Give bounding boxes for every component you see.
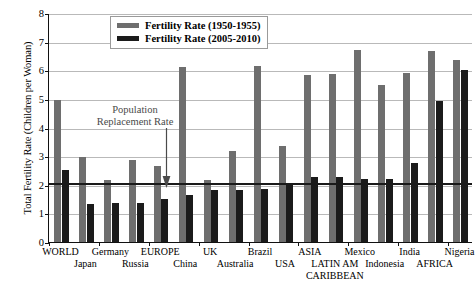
- fertility-rate-bar-chart: Total Fertility Rate (Children per Woman…: [0, 0, 476, 297]
- bar-2005-2010: [386, 179, 393, 242]
- y-tick-label: 1: [39, 209, 44, 220]
- bar-2005-2010: [286, 183, 293, 242]
- bar-2005-2010: [311, 177, 318, 242]
- bar-1950-1955: [179, 67, 186, 242]
- bar-1950-1955: [304, 75, 311, 242]
- x-axis-label: ASIA: [298, 246, 321, 257]
- bar-2005-2010: [137, 203, 144, 242]
- legend-item-1950-1955: Fertility Rate (1950-1955): [117, 19, 260, 32]
- bar-2005-2010: [186, 195, 193, 242]
- bar-1950-1955: [104, 180, 111, 242]
- bar-group: [79, 14, 94, 242]
- annotation-line-2: Replacement Rate: [83, 116, 187, 128]
- legend-swatch-old: [117, 23, 139, 28]
- bar-2005-2010: [236, 190, 243, 242]
- bar-1950-1955: [279, 146, 286, 242]
- bar-group: [329, 14, 344, 242]
- bar-1950-1955: [229, 151, 236, 242]
- x-axis-label: Brazil: [248, 246, 272, 257]
- y-tick-label: 5: [39, 95, 44, 106]
- bar-group: [378, 14, 393, 242]
- legend-label-old: Fertility Rate (1950-1955): [145, 20, 260, 31]
- bar-1950-1955: [403, 73, 410, 242]
- x-axis-label: UK: [203, 246, 217, 257]
- x-axis-label: AFRICA: [416, 258, 453, 269]
- bar-1950-1955: [54, 100, 61, 242]
- bar-group: [54, 14, 69, 242]
- x-axis-label: WORLD: [42, 246, 79, 257]
- y-tick-label: 8: [39, 9, 44, 20]
- x-axis-label: Australia: [217, 258, 254, 269]
- bar-2005-2010: [161, 199, 168, 242]
- chart-legend: Fertility Rate (1950-1955) Fertility Rat…: [110, 16, 268, 49]
- bar-group: [428, 14, 443, 242]
- population-replacement-rate-line: [49, 183, 472, 185]
- y-tick-mark: [45, 214, 49, 215]
- y-tick-mark: [45, 157, 49, 158]
- y-tick-mark: [45, 14, 49, 15]
- legend-swatch-new: [117, 36, 139, 41]
- x-axis-label: EUROPE: [141, 246, 180, 257]
- bar-1950-1955: [354, 50, 361, 242]
- annotation-arrow-icon: [162, 128, 171, 188]
- x-axis-label: Japan: [74, 258, 97, 269]
- y-tick-label: 6: [39, 66, 44, 77]
- x-axis-label: Mexico: [344, 246, 375, 257]
- x-axis-label: China: [173, 258, 197, 269]
- x-axis-label: CARIBBEAN: [306, 270, 364, 281]
- y-tick-mark: [45, 43, 49, 44]
- bar-2005-2010: [436, 101, 443, 242]
- bar-group: [354, 14, 369, 242]
- bar-2005-2010: [62, 170, 69, 242]
- bar-1950-1955: [329, 74, 336, 242]
- x-axis-label: LATIN AM: [311, 258, 358, 269]
- bar-2005-2010: [461, 70, 468, 242]
- y-axis-title: Total Fertility Rate (Children per Woman…: [22, 8, 34, 248]
- bar-1950-1955: [453, 60, 460, 242]
- x-axis-label: Indonesia: [365, 258, 404, 269]
- x-axis-category-labels: WORLDJapanGermanyRussiaEUROPEChinaUKAust…: [48, 245, 472, 297]
- y-tick-mark: [45, 186, 49, 187]
- bar-2005-2010: [211, 190, 218, 242]
- legend-item-2005-2010: Fertility Rate (2005-2010): [117, 32, 260, 45]
- bar-group: [304, 14, 319, 242]
- bar-group: [403, 14, 418, 242]
- bar-1950-1955: [254, 66, 261, 242]
- annotation-line-1: Population: [83, 104, 187, 116]
- bar-2005-2010: [87, 204, 94, 242]
- bar-1950-1955: [428, 51, 435, 242]
- population-replacement-rate-annotation: Population Replacement Rate: [83, 104, 187, 128]
- bar-2005-2010: [411, 163, 418, 242]
- bar-1950-1955: [154, 166, 161, 242]
- x-axis-label: India: [399, 246, 420, 257]
- bar-group: [453, 14, 468, 242]
- y-tick-label: 4: [39, 123, 44, 134]
- y-tick-mark: [45, 129, 49, 130]
- y-tick-mark: [45, 100, 49, 101]
- bar-2005-2010: [361, 179, 368, 242]
- bar-group: [279, 14, 294, 242]
- y-tick-label: 2: [39, 181, 44, 192]
- bar-2005-2010: [112, 203, 119, 242]
- bar-2005-2010: [336, 177, 343, 242]
- x-axis-label: Nigeria: [445, 246, 475, 257]
- bar-1950-1955: [79, 157, 86, 242]
- bar-2005-2010: [261, 189, 268, 242]
- x-axis-label: USA: [275, 258, 295, 269]
- bar-1950-1955: [378, 85, 385, 242]
- x-axis-label: Russia: [122, 258, 149, 269]
- x-axis-label: Germany: [92, 246, 129, 257]
- y-tick-label: 3: [39, 152, 44, 163]
- y-tick-mark: [45, 71, 49, 72]
- bar-1950-1955: [129, 160, 136, 242]
- legend-label-new: Fertility Rate (2005-2010): [145, 33, 260, 44]
- y-tick-label: 7: [39, 37, 44, 48]
- bar-1950-1955: [204, 180, 211, 242]
